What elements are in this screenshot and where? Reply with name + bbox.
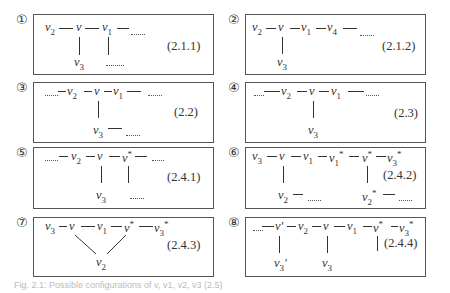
edge	[135, 156, 147, 157]
panel-2-4-4: v' v2 v v1 v* v3* v3' v3 (2.4.4)	[245, 217, 426, 277]
panel-2-4-1: v2 v v* v3 (2.4.1)	[33, 147, 214, 209]
edge	[287, 226, 296, 227]
edge	[101, 166, 102, 183]
edge	[367, 166, 368, 183]
edge	[264, 91, 280, 92]
edge	[85, 28, 99, 29]
node-v2: v2	[252, 20, 262, 37]
node-v-star: v*	[373, 219, 383, 236]
node-v-star: v*	[122, 149, 132, 166]
edge	[108, 37, 109, 55]
panel-2-4-2: v3 v v1 v1* v* v3* v2 v2* (2.4.2)	[245, 147, 426, 209]
edge	[316, 28, 326, 29]
ellipsis	[131, 34, 145, 35]
edge	[128, 166, 129, 183]
panel-number-5: ⑤	[16, 145, 28, 160]
node-v3-prime: v3'	[274, 256, 287, 273]
edge	[98, 101, 99, 118]
ellipsis	[152, 160, 164, 161]
node-v3-star: v3*	[399, 219, 414, 238]
edge	[290, 28, 300, 29]
panel-number-3: ③	[16, 80, 28, 95]
node-v2-star: v2*	[362, 188, 377, 207]
panel-2-2: v2 v v1 v3 (2.2)	[33, 82, 214, 143]
edge	[283, 166, 284, 183]
panel-2-3: v2 v v1 v3 (2.3)	[245, 82, 426, 143]
edge	[279, 236, 280, 253]
equation-label: (2.4.1)	[167, 170, 200, 185]
figure-caption: Fig. 2.1: Possible configurations of v, …	[14, 280, 222, 290]
ellipsis	[45, 95, 58, 96]
equation-label: (2.4.2)	[383, 168, 416, 183]
ellipsis	[308, 200, 321, 201]
edge	[383, 194, 395, 195]
node-v2: v2	[45, 20, 55, 37]
panel-2-1-2: v2 v v1 v4 v3 (2.1.2)	[245, 14, 426, 75]
panel-2-4-3: v3 v v1 v* v3* v2 (2.4.3)	[33, 217, 214, 277]
ellipsis	[106, 65, 124, 66]
edge	[312, 226, 321, 227]
node-v2: v2	[67, 84, 77, 101]
edge	[59, 156, 68, 157]
edge	[376, 156, 386, 157]
edge	[104, 91, 112, 92]
edge	[297, 91, 307, 92]
node-v: v	[76, 20, 82, 35]
edge	[377, 236, 378, 251]
edge	[86, 156, 95, 157]
node-v2: v2	[298, 219, 308, 236]
ellipsis	[126, 135, 140, 136]
node-v2: v2	[281, 84, 291, 101]
edge	[127, 91, 141, 92]
node-v1: v1	[331, 84, 341, 101]
panel-number-2: ②	[228, 12, 240, 27]
node-v3-star: v3*	[387, 149, 402, 168]
panel-2-1-1: v2 v v1 v3 (2.1.1)	[33, 14, 214, 75]
node-v4: v4	[327, 20, 337, 37]
ellipsis	[399, 200, 412, 201]
node-v2: v2	[278, 188, 288, 205]
equation-label: (2.2)	[174, 105, 198, 120]
node-v: v	[97, 149, 103, 164]
node-v: v	[279, 149, 285, 164]
node-v3: v3	[277, 55, 287, 72]
panel-number-1: ①	[16, 12, 28, 27]
node-v2: v2	[71, 149, 81, 166]
edge	[391, 226, 398, 227]
ellipsis	[366, 95, 379, 96]
edge	[266, 28, 276, 29]
edge	[363, 226, 372, 227]
node-v1: v1	[301, 20, 311, 37]
edge	[327, 236, 328, 253]
edge	[343, 28, 357, 29]
node-v: v	[309, 84, 315, 99]
ellipsis	[254, 95, 264, 96]
edge	[318, 156, 327, 157]
edge	[291, 156, 301, 157]
edge	[59, 28, 73, 29]
panel-number-4: ④	[228, 80, 240, 95]
node-v1: v1	[303, 149, 313, 166]
equation-label: (2.1.2)	[382, 39, 415, 54]
edge	[293, 194, 303, 195]
edge	[79, 37, 80, 55]
node-v3: v3	[308, 123, 318, 140]
node-v: v	[323, 219, 329, 234]
node-v: v	[278, 20, 284, 35]
node-v-star: v*	[362, 149, 372, 166]
edge	[262, 226, 274, 227]
edge	[267, 156, 277, 157]
edge	[108, 128, 122, 129]
equation-label: (2.4.4)	[384, 236, 417, 251]
ellipsis	[148, 95, 162, 96]
node-v1-star: v1*	[329, 149, 344, 168]
node-v1: v1	[102, 20, 112, 37]
edge	[319, 91, 329, 92]
node-v3: v3	[252, 149, 262, 166]
node-v3: v3	[74, 55, 84, 72]
edge	[349, 156, 359, 157]
edge	[334, 226, 345, 227]
edge	[282, 37, 283, 54]
edge	[348, 91, 364, 92]
edge	[109, 156, 120, 157]
